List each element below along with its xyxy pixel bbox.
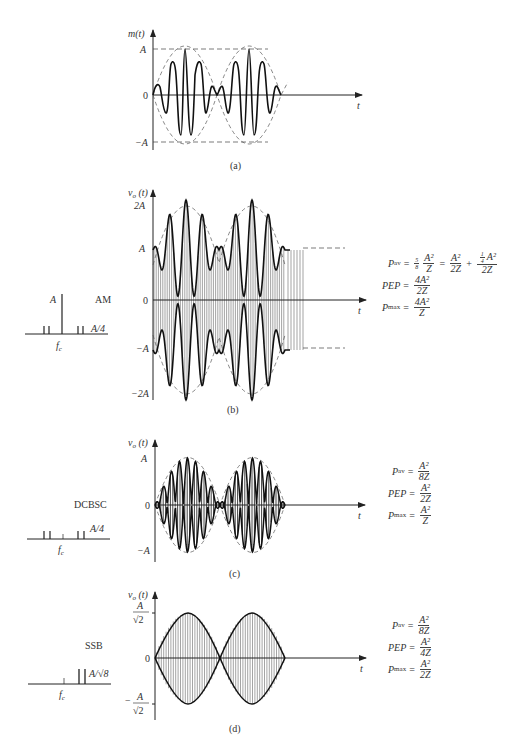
equation-p-max: Pmax= A²2Z — [388, 658, 433, 680]
am-power-equations: Pav = 58 A²Z = A²2Z + 14A²2Z PEP= 4A²2Z … — [388, 252, 499, 318]
panel-b: vo (t) t 2A A 0 −A −2A (b) — [128, 187, 366, 416]
modulation-type-label: SSB — [85, 640, 103, 651]
x-axis-label: t — [358, 305, 361, 316]
tick-minus-A: −A — [137, 545, 151, 556]
tick-0: 0 — [143, 295, 148, 306]
figure-canvas: m(t) t A 0 −A (a) vo (t) t 2A A 0 −A −2A… — [0, 0, 525, 749]
equation-p-av: Pav= A²8Z — [392, 460, 433, 482]
panel-caption: (d) — [229, 723, 241, 735]
panel-caption: (b) — [227, 404, 239, 416]
x-axis-label: t — [357, 100, 360, 111]
tick-0: 0 — [145, 653, 150, 664]
carrier-frequency-label: fc — [58, 544, 65, 557]
equation-p-av: Pav = 58 A²Z = A²2Z + 14A²2Z — [388, 252, 499, 274]
y-axis-label: vo (t) — [128, 437, 149, 450]
equation-p-max: Pmax= A²Z — [388, 504, 433, 526]
modulation-type-label: DCBSC — [74, 499, 107, 510]
tick-0: 0 — [145, 500, 150, 511]
carrier-frequency-label: fc — [59, 689, 66, 702]
sideband-amplitude-label: A/4 — [89, 523, 104, 534]
y-axis-label: vo (t) — [128, 187, 149, 200]
x-axis-label: t — [358, 510, 361, 521]
lower-envelope — [153, 95, 281, 144]
modulating-signal-wave — [153, 49, 281, 135]
ssb-upper-envelope — [155, 613, 285, 658]
ssb-power-equations: Pav= A²8Z PEP= A²4Z Pmax= A²2Z — [388, 614, 433, 680]
equation-p-av: Pav= A²8Z — [392, 614, 433, 636]
tick-minus-A: −A — [135, 137, 149, 148]
panel-c: vo (t) t A 0 −A (c) — [128, 437, 365, 580]
tick-top-denominator: √2 — [133, 614, 144, 625]
sideband-amplitude-label: A/4 — [90, 323, 105, 334]
panel-a: m(t) t A 0 −A (a) — [128, 28, 362, 172]
tick-top-numerator: A — [136, 600, 144, 611]
ssb-lower-envelope — [155, 658, 285, 704]
tick-2A: 2A — [134, 200, 146, 211]
y-axis-label: m(t) — [128, 28, 145, 40]
tick-A: A — [138, 243, 146, 254]
x-axis-label: t — [360, 663, 363, 674]
tick-minus-2A: −2A — [131, 388, 150, 399]
panel-caption: (c) — [229, 568, 240, 580]
tick-A: A — [140, 453, 148, 464]
tick-minus-A: −A — [136, 343, 150, 354]
dsbsc-power-equations: Pav= A²8Z PEP= A²2Z Pmax= A²Z — [388, 460, 433, 526]
equation-pep: PEP= 4A²2Z — [382, 274, 499, 296]
equation-pep: PEP= A²2Z — [388, 482, 433, 504]
tick-bottom-minus: − — [125, 695, 131, 706]
tick-A: A — [139, 44, 147, 55]
modulation-type-label: AM — [95, 294, 111, 305]
carrier-amplitude-label: A — [49, 294, 57, 305]
tick-bottom-denominator: √2 — [133, 705, 144, 716]
panel-d: vo (t) t A √2 0 − A √2 (d) — [125, 589, 366, 735]
carrier-frequency-label: fc — [56, 340, 63, 353]
sideband-amplitude-label: A/√8 — [88, 668, 108, 679]
tick-bottom-numerator: A — [136, 691, 144, 702]
equation-pep: PEP= A²4Z — [388, 636, 433, 658]
equation-p-max: Pmax= 4A²Z — [382, 296, 499, 318]
panel-caption: (a) — [230, 160, 241, 172]
tick-0: 0 — [143, 90, 148, 101]
